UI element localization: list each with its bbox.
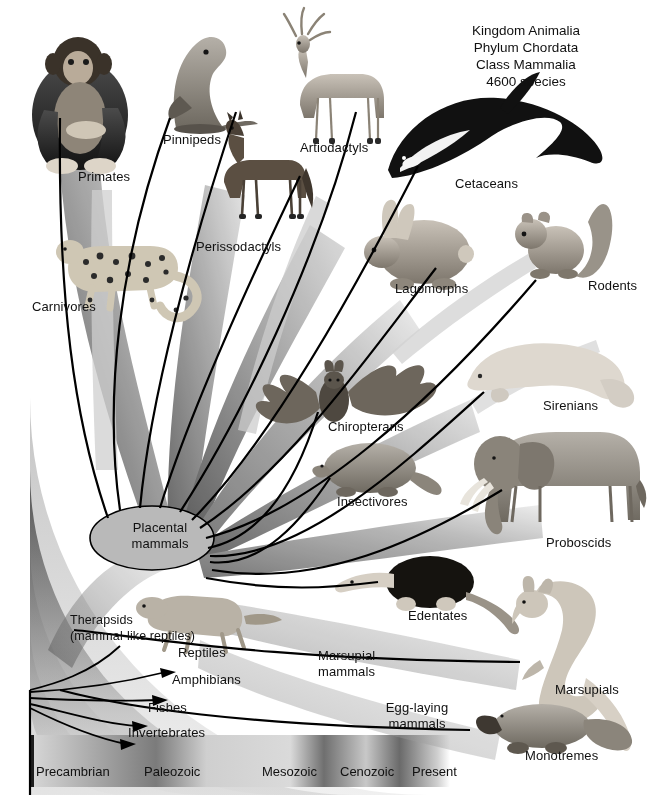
label-chiropterans: Chiropterans [328,419,404,434]
era-label-paleozoic: Paleozoic [144,764,200,779]
label-marsupial-mammals: Marsupial mammals [318,648,428,680]
label-cetaceans: Cetaceans [455,176,518,191]
mammal-phylogeny-diagram: Kingdom Animalia Phylum Chordata Class M… [0,0,663,795]
label-pinnipeds: Pinnipeds [163,132,221,147]
era-label-precambrian: Precambrian [36,764,110,779]
stem-reptiles [30,672,166,692]
label-monotremes: Monotremes [525,748,598,763]
header-line-phylum: Phylum Chordata [406,39,646,56]
label-marsupials: Marsupials [555,682,619,697]
stem-sirenians [210,392,484,556]
label-sirenians: Sirenians [543,398,598,413]
stem-perissodactyls [160,176,300,508]
label-fishes: Fishes [148,700,187,715]
label-egg-laying-mammals: Egg-laying mammals [362,700,472,732]
label-perissodactyls: Perissodactyls [196,239,281,254]
label-insectivores: Insectivores [337,494,408,509]
label-rodents: Rodents [588,278,637,293]
era-label-cenozoic: Cenozoic [340,764,394,779]
label-artiodactyls: Artiodactyls [300,140,368,155]
label-placental-mammals: Placental mammals [110,520,210,552]
stem-edentates [206,578,378,588]
era-label-mesozoic: Mesozoic [262,764,317,779]
label-lagomorphs: Lagomorphs [395,281,468,296]
stem-insectivores [210,478,330,563]
stem-lagomorphs [200,268,436,528]
stem-invertebrates [30,708,126,744]
label-carnivores: Carnivores [32,299,96,314]
label-therapsids: Therapsids (mammal-like reptiles) [70,612,270,644]
header-line-class: Class Mammalia [406,56,646,73]
label-amphibians: Amphibians [172,672,241,687]
stem-artiodactyls [180,112,356,512]
label-edentates: Edentates [408,608,467,623]
header-line-kingdom: Kingdom Animalia [406,22,646,39]
label-primates: Primates [78,169,130,184]
header-line-species: 4600 species [406,73,646,90]
stem-pinnipeds [140,112,236,508]
era-label-present: Present [412,764,457,779]
label-invertebrates: Invertebrates [128,725,205,740]
taxonomy-header: Kingdom Animalia Phylum Chordata Class M… [406,22,646,90]
label-reptiles: Reptiles [178,645,226,660]
label-proboscids: Proboscids [546,535,611,550]
stem-cetaceans [192,166,418,520]
